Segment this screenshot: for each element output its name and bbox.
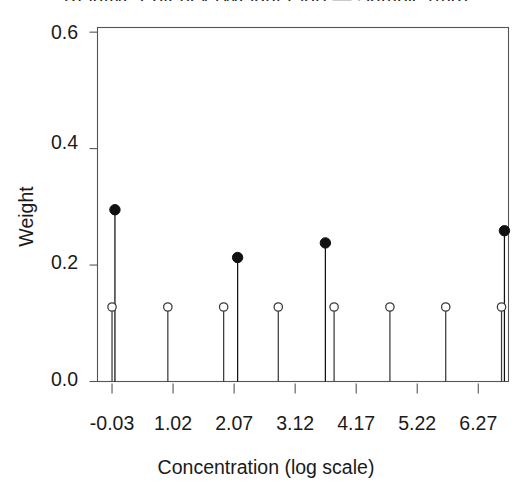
data-point-filled [232,252,242,262]
data-point-open [108,303,116,311]
data-point-open [330,303,338,311]
data-point-filled [110,205,120,215]
y-axis-title: Weight [15,127,38,307]
y-tick-label: 0.6 [18,23,78,43]
data-point-open [497,303,505,311]
data-point-open [274,303,282,311]
x-tick-label: 6.27 [438,414,518,434]
data-point-open [386,303,394,311]
data-point-open [164,303,172,311]
x-axis-title: Concentration (log scale) [0,456,532,479]
weight-vs-concentration-chart: Relative Potency (Weight Plot) — Sample … [0,0,532,495]
data-point-filled [499,226,509,236]
plot-box-frame [98,28,509,382]
data-point-open [442,303,450,311]
data-point-open [219,303,227,311]
y-tick-label: 0.0 [18,370,78,390]
data-point-filled [320,238,330,248]
